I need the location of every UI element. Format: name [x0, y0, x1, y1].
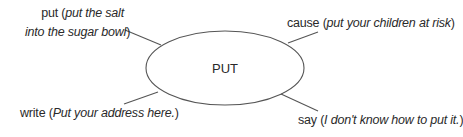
connector-bottom-right [281, 94, 318, 111]
center-label: PUT [212, 61, 238, 76]
connector-top-right [288, 32, 318, 43]
branch-word: write [20, 106, 45, 120]
branch-example: put your children at risk [327, 16, 451, 30]
branch-label-bottom-right: say (I don't know how to put it.) [298, 111, 463, 130]
branch-line-2: into the sugar bowl) [25, 23, 130, 42]
branch-line-1: put (put the salt [35, 4, 130, 23]
branch-example: put the salt [65, 6, 124, 20]
branch-label-bottom-left: write (Put your address here.) [20, 104, 179, 123]
branch-example: Put your address here. [53, 106, 175, 120]
branch-label-top-right: cause (put your children at risk) [287, 14, 455, 33]
connector-top-left [125, 30, 161, 45]
branch-example-cont: into the sugar bowl [25, 25, 126, 39]
branch-word: put [41, 6, 58, 20]
branch-label-top-left: put (put the salt into the sugar bowl) [35, 4, 130, 42]
connector-bottom-left [124, 92, 158, 104]
branch-example: I don't know how to put it. [324, 113, 459, 127]
branch-word: say [298, 113, 317, 127]
branch-word: cause [287, 16, 319, 30]
